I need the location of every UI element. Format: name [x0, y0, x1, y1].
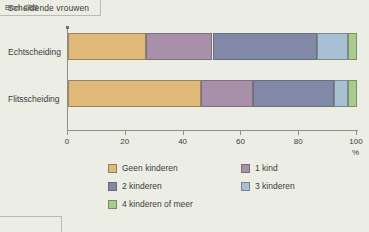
- source-box: [0, 216, 62, 232]
- category-label-flitsscheiding: Flitsscheiding: [8, 94, 60, 104]
- category-label-echtscheiding: Echtscheiding: [8, 47, 61, 57]
- chart-figure: { "title": "Scheidende vrouwen", "source…: [0, 0, 369, 232]
- x-tick-label-20: 20: [120, 137, 129, 146]
- bar-segment: [68, 80, 201, 107]
- bar-segment: [201, 80, 253, 107]
- x-tick-label-0: 0: [65, 137, 69, 146]
- bar-segment: [146, 33, 212, 60]
- x-tick-label-40: 40: [178, 137, 187, 146]
- bar-echtscheiding: [68, 33, 357, 60]
- y-axis-arrow-icon: [66, 26, 69, 29]
- legend-item[interactable]: 2 kinderen: [108, 181, 162, 191]
- x-tick-label-60: 60: [236, 137, 245, 146]
- bar-segment: [68, 33, 146, 60]
- legend-swatch-icon: [108, 182, 117, 191]
- x-tick-80: [298, 131, 299, 135]
- x-axis-line: [67, 130, 358, 131]
- legend-swatch-icon: [241, 182, 250, 191]
- legend-item[interactable]: 4 kinderen of meer: [108, 199, 193, 209]
- source-label: Bron: CBS: [5, 4, 38, 11]
- legend-item[interactable]: Geen kinderen: [108, 163, 178, 173]
- bar-segment: [348, 33, 357, 60]
- legend-label: 1 kind: [255, 163, 278, 173]
- bar-segment: [334, 80, 348, 107]
- bar-segment: [317, 33, 349, 60]
- x-tick-0: [67, 131, 68, 135]
- legend-label: Geen kinderen: [122, 163, 178, 173]
- x-tick-40: [183, 131, 184, 135]
- legend-label: 3 kinderen: [255, 181, 295, 191]
- legend-swatch-icon: [108, 200, 117, 209]
- x-tick-20: [125, 131, 126, 135]
- bar-segment: [348, 80, 357, 107]
- legend-swatch-icon: [108, 164, 117, 173]
- legend-item[interactable]: 1 kind: [241, 163, 278, 173]
- x-axis-unit-label: %: [352, 148, 359, 157]
- bar-segment: [253, 80, 334, 107]
- x-tick-100: [356, 131, 357, 135]
- x-tick-label-100: 100: [349, 137, 362, 146]
- legend-label: 4 kinderen of meer: [122, 199, 193, 209]
- legend-swatch-icon: [241, 164, 250, 173]
- x-tick-60: [240, 131, 241, 135]
- legend-item[interactable]: 3 kinderen: [241, 181, 295, 191]
- bar-segment: [213, 33, 317, 60]
- x-tick-label-80: 80: [294, 137, 303, 146]
- legend-label: 2 kinderen: [122, 181, 162, 191]
- bar-flitsscheiding: [68, 80, 357, 107]
